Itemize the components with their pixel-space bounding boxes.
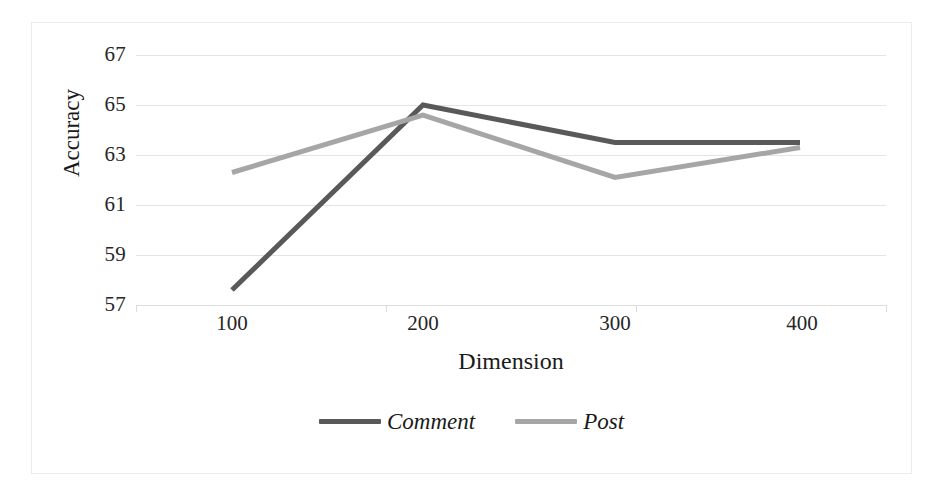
y-tick-label-65: 65 (104, 94, 126, 115)
x-axis-title: Dimension (136, 348, 886, 375)
y-tick-label-67: 67 (104, 44, 126, 65)
x-tick-label-400: 400 (757, 313, 847, 334)
series-line-comment (232, 105, 800, 290)
legend-item-comment[interactable]: Comment (319, 410, 475, 433)
legend-swatch-post (515, 419, 577, 424)
x-tick-label-100: 100 (187, 313, 277, 334)
legend-label-comment: Comment (387, 410, 475, 433)
y-tick-label-59: 59 (104, 244, 126, 265)
y-tick-label-61: 61 (104, 194, 126, 215)
x-tick-label-300: 300 (570, 313, 660, 334)
chart-legend: Comment Post (0, 410, 943, 433)
y-tick-label-57: 57 (104, 294, 126, 315)
legend-swatch-comment (319, 419, 381, 424)
y-tick-label-63: 63 (104, 144, 126, 165)
x-tick-label-200: 200 (378, 313, 468, 334)
chart-container: 67 65 63 61 59 57 100 200 300 400 Accura… (0, 0, 943, 498)
y-axis-title: Accuracy (59, 53, 85, 213)
legend-item-post[interactable]: Post (515, 410, 624, 433)
legend-label-post: Post (583, 410, 624, 433)
